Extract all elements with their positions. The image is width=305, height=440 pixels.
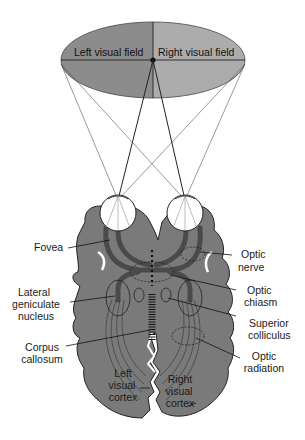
label-corpus-callosum-1: Corpus: [25, 341, 59, 353]
label-superior-colliculus-2: colliculus: [248, 329, 291, 341]
visual-pathway-diagram: Left visual field Right visual field: [0, 0, 305, 440]
label-lgn-2: geniculate: [12, 298, 60, 310]
left-visual-field-label: Left visual field: [74, 46, 144, 58]
label-left-visual-cortex-3: cortex: [109, 391, 138, 403]
right-visual-field-label: Right visual field: [158, 46, 235, 58]
label-optic-chiasm-2: chiasm: [244, 296, 278, 308]
label-optic-radiation-1: Optic: [252, 350, 277, 362]
label-superior-colliculus-1: Superior: [249, 317, 289, 329]
label-left-visual-cortex-2: visual: [109, 379, 136, 391]
label-optic-radiation-2: radiation: [244, 362, 284, 374]
label-corpus-callosum-2: callosum: [21, 353, 63, 365]
label-right-visual-cortex-2: visual: [166, 385, 193, 397]
label-fovea: Fovea: [34, 241, 63, 253]
label-optic-nerve-1: Optic: [241, 248, 266, 260]
label-lgn-3: nucleus: [18, 310, 54, 322]
label-left-visual-cortex-1: Left: [114, 367, 132, 379]
label-optic-chiasm-1: Optic: [247, 284, 272, 296]
label-right-visual-cortex-3: cortex: [166, 397, 195, 409]
label-right-visual-cortex-1: Right: [168, 373, 193, 385]
label-lgn-1: Lateral: [18, 286, 50, 298]
label-optic-nerve-2: nerve: [238, 261, 264, 273]
